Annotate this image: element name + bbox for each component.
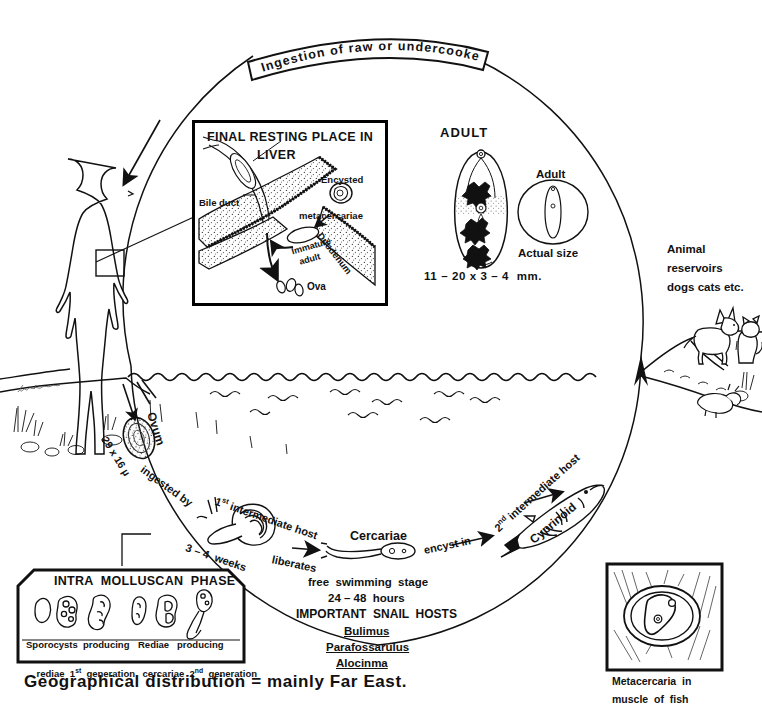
snail-hosts-heading: IMPORTANT SNAIL HOSTS <box>296 608 457 621</box>
liver-inset-title-line1: FINAL RESTING PLACE IN <box>207 130 373 144</box>
human-nose <box>128 191 133 196</box>
geographical-distribution-caption: Geographical distribution = mainly Far E… <box>24 672 407 691</box>
metacercariae-label: metacercariae <box>299 211 363 222</box>
cycle-arrow-to-human <box>124 120 160 184</box>
snail-host-item-2: Alocinma <box>336 657 388 670</box>
banner-text-path: Ingestion of raw or undercooked fish. <box>0 0 481 75</box>
free-swimming-label: free swimming stage <box>308 576 428 589</box>
top-banner-text: Ingestion of raw or undercooked fish. <box>0 0 762 110</box>
cycle-arrow-right <box>634 355 648 386</box>
fish-inset-caption-line2: muscle of fish <box>612 694 688 706</box>
mollusc-left-line1: Sporocysts producing <box>26 640 129 651</box>
svg-text:Ingestion of raw or undercooke: Ingestion of raw or undercooked fish. <box>0 0 481 75</box>
adult-fluke-drawing <box>455 150 508 270</box>
actual-size-drawing <box>518 180 588 244</box>
water-ripples <box>210 390 500 423</box>
reservoirs-line1: Animal <box>667 243 705 256</box>
actual-size-heading: Adult <box>536 168 565 181</box>
snail-host-item-0: Bulimus <box>344 625 389 638</box>
mollusc-box-title: INTRA MOLLUSCAN PHASE <box>54 574 235 588</box>
cercaria-drawing <box>321 543 415 559</box>
liver-inset-title-line2: LIVER <box>257 148 296 162</box>
adult-heading: ADULT <box>440 126 488 141</box>
dog-figure <box>684 308 739 364</box>
human-figure <box>56 159 127 454</box>
water-surface <box>128 374 596 381</box>
life-cycle-diagram: FINAL RESTING PLACE IN LIVER Bile duct E… <box>0 0 762 718</box>
cat-figure <box>738 316 762 363</box>
mollusc-leader <box>122 534 151 566</box>
mollusc-right-line1: Rediae producing <box>138 640 224 651</box>
encysted-label: Encysted <box>321 175 363 186</box>
snail-host-item-1: Parafossarulus <box>326 641 409 654</box>
fish-inset-caption-line1: Metacercaria in <box>612 676 691 688</box>
lying-animal <box>698 384 741 418</box>
adult-size-label: 11 – 20 x 3 – 4 mm. <box>424 270 542 283</box>
metacercaria-inset-art <box>607 564 722 670</box>
ova-label: Ova <box>307 281 326 292</box>
hours-label: 24 – 48 hours <box>328 592 405 605</box>
bile-duct-label: Bile duct <box>199 198 239 209</box>
actual-size-label: Actual size <box>518 247 578 260</box>
liver-inset-box: FINAL RESTING PLACE IN LIVER Bile duct E… <box>192 120 388 306</box>
reservoirs-line2: reservoirs <box>667 262 723 275</box>
cercariae-label: Cercariae <box>350 529 407 543</box>
reservoirs-line3: dogs cats etc. <box>667 281 744 294</box>
